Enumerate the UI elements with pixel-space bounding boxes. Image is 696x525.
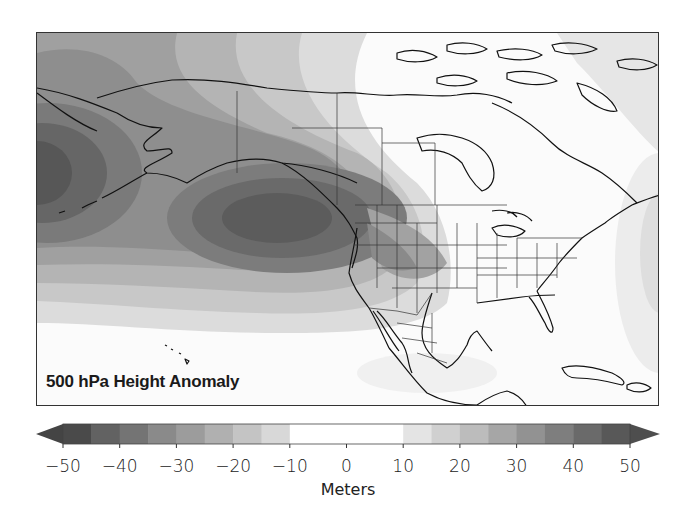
colorbar-segments <box>63 424 631 444</box>
colorbar-segment <box>403 424 432 444</box>
colorbar-segment <box>460 424 489 444</box>
colorbar-segment <box>573 424 602 444</box>
colorbar-segment <box>432 424 461 444</box>
colorbar-tick-label: −50 <box>45 456 81 476</box>
colorbar-over-arrow <box>630 424 660 444</box>
colorbar-segment <box>148 424 177 444</box>
height-anomaly-map <box>37 33 659 406</box>
colorbar-segment <box>91 424 120 444</box>
colorbar-segment <box>176 424 205 444</box>
colorbar-tick-label: −10 <box>272 456 308 476</box>
map-title: 500 hPa Height Anomaly <box>46 372 239 392</box>
colorbar-tick-label: 0 <box>341 456 352 476</box>
colorbar-segment <box>347 424 376 444</box>
colorbar-tick-label: 30 <box>506 456 528 476</box>
colorbar-segment <box>318 424 347 444</box>
colorbar-under-arrow <box>36 424 63 444</box>
colorbar-unit-label: Meters <box>321 480 376 499</box>
colorbar-tick-label: −20 <box>215 456 251 476</box>
colorbar-segment <box>233 424 262 444</box>
colorbar-tick-label: 20 <box>449 456 471 476</box>
colorbar-segment <box>120 424 149 444</box>
colorbar-tick-label: 50 <box>619 456 641 476</box>
colorbar-tick-label: −30 <box>158 456 194 476</box>
colorbar <box>0 418 696 458</box>
colorbar-segment <box>261 424 290 444</box>
colorbar-tick-label: 40 <box>562 456 584 476</box>
colorbar-segment <box>205 424 234 444</box>
colorbar-segment <box>517 424 546 444</box>
colorbar-segment <box>63 424 92 444</box>
colorbar-ticks <box>63 444 630 448</box>
colorbar-segment <box>545 424 574 444</box>
colorbar-tick-label: 10 <box>392 456 414 476</box>
colorbar-segment <box>375 424 404 444</box>
colorbar-tick-label: −40 <box>102 456 138 476</box>
colorbar-segment <box>602 424 631 444</box>
colorbar-segment <box>290 424 319 444</box>
map-panel <box>36 32 659 406</box>
colorbar-segment <box>488 424 517 444</box>
